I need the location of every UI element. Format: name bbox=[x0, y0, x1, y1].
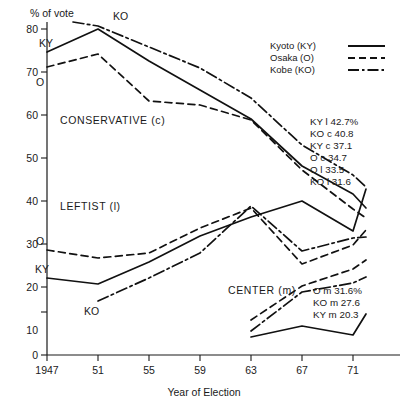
group-label-conservative: CONSERVATIVE (c) bbox=[60, 114, 165, 126]
inline-label-kyoto-conservative: KY bbox=[39, 37, 53, 49]
x-tick-label-55: 55 bbox=[143, 364, 155, 376]
y-tick-label-10: 10 bbox=[26, 324, 38, 336]
group-label-leftist: LEFTIST (l) bbox=[60, 200, 121, 212]
x-tick-label-67: 67 bbox=[296, 364, 308, 376]
annotation-ko-conservative: KO c 40.8 bbox=[310, 128, 354, 139]
annotation-ky-center: KY m 20.3 bbox=[313, 309, 359, 320]
annotation-ky-conservative: KY c 37.1 bbox=[310, 140, 352, 151]
annotation-block-center: O m 31.6% KO m 27.6 KY m 20.3 bbox=[313, 285, 362, 320]
legend: Kyoto (KY) Osaka (O) Kobe (KO) bbox=[270, 40, 385, 75]
legend-label-kyoto: Kyoto (KY) bbox=[270, 40, 316, 51]
x-axis: 1947 51 55 59 63 67 71 Year of Election bbox=[35, 355, 400, 398]
series-line-osaka-leftist bbox=[47, 208, 366, 264]
annotation-o-center: O m 31.6% bbox=[313, 285, 362, 296]
x-tick-label-63: 63 bbox=[245, 364, 257, 376]
x-axis-title: Year of Election bbox=[167, 386, 240, 398]
y-axis-title: % of vote bbox=[30, 7, 74, 19]
y-tick-label-20: 20 bbox=[26, 281, 38, 293]
annotation-ko-leftist: KO l 31.6 bbox=[310, 176, 351, 187]
annotation-block-endpoints: KY l 42.7% KO c 40.8 KY c 37.1 O c 34.7 … bbox=[310, 116, 359, 187]
inline-label-osaka-leftist: O bbox=[36, 235, 44, 247]
legend-label-kobe: Kobe (KO) bbox=[270, 64, 315, 75]
legend-label-osaka: Osaka (O) bbox=[270, 52, 314, 63]
x-tick-label-1947: 1947 bbox=[35, 364, 59, 376]
group-label-center: CENTER (m) bbox=[228, 284, 296, 296]
annotation-ky-leftist: KY l 42.7% bbox=[310, 116, 359, 127]
y-axis: 80 70 60 50 40 30 20 10 0 % of vote bbox=[26, 7, 74, 361]
y-tick-label-60: 60 bbox=[26, 109, 38, 121]
y-tick-label-80: 80 bbox=[26, 23, 38, 35]
x-tick-marks bbox=[47, 355, 353, 361]
y-tick-label-0: 0 bbox=[32, 349, 38, 361]
annotation-ko-center: KO m 27.6 bbox=[313, 297, 360, 308]
inline-label-kobe-conservative: KO bbox=[113, 10, 128, 22]
election-line-chart: 80 70 60 50 40 30 20 10 0 % of vote 1947… bbox=[0, 0, 409, 410]
annotation-o-conservative: O c 34.7 bbox=[310, 152, 347, 163]
x-tick-label-71: 71 bbox=[347, 364, 359, 376]
x-tick-label-51: 51 bbox=[92, 364, 104, 376]
inline-label-kobe-leftist: KO bbox=[84, 305, 99, 317]
annotation-o-leftist: O l 33.5 bbox=[310, 164, 345, 175]
y-tick-label-50: 50 bbox=[26, 152, 38, 164]
inline-label-kyoto-leftist: KY bbox=[35, 263, 49, 275]
y-tick-label-40: 40 bbox=[26, 195, 38, 207]
x-tick-label-59: 59 bbox=[194, 364, 206, 376]
inline-label-osaka-conservative: O bbox=[36, 76, 44, 88]
